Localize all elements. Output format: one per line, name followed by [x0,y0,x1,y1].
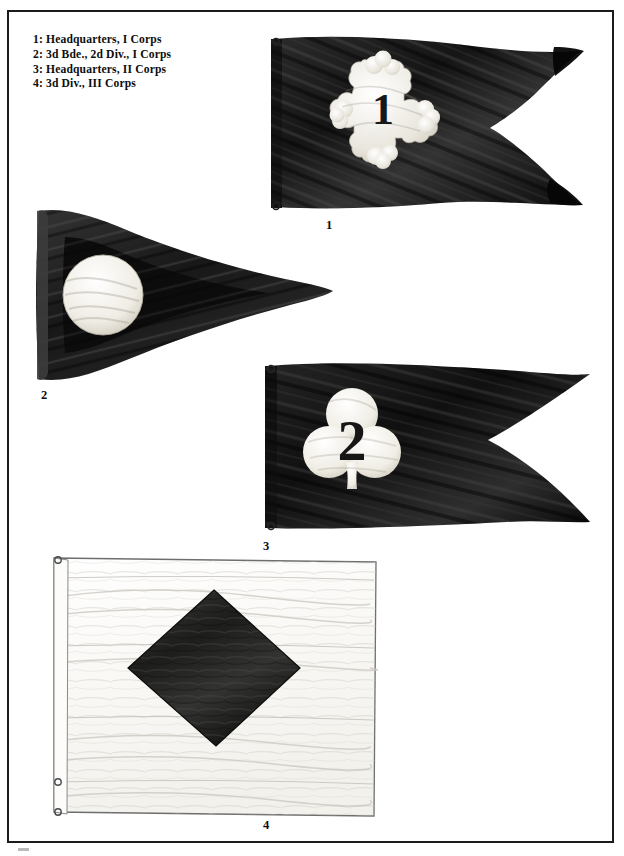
flag-3-emblem-numeral: 2 [338,408,367,473]
flag-figure-2 [33,203,338,385]
flag-2-hoist-edge [37,210,48,380]
legend-line-1: 1: Headquarters, I Corps [33,33,263,48]
flag-figure-1: 1 [262,33,587,218]
legend-line-4: 4: 3d Div., III Corps [33,77,263,92]
flag-3-illustration: 2 [256,360,596,535]
flag-2-emblem-disc [63,255,143,335]
flag-plate: 1: Headquarters, I Corps 2: 3d Bde., 2d … [0,0,624,856]
flag-3-hoist-texture [265,366,277,528]
flag-1-illustration: 1 [262,33,587,218]
flag-caption-2: 2 [34,388,54,403]
legend-block: 1: Headquarters, I Corps 2: 3d Bde., 2d … [33,33,263,92]
flag-figure-3: 2 [256,360,596,535]
flag-4-hoist-strip [54,558,68,814]
flag-1-emblem-numeral: 1 [372,85,394,134]
flag-2-illustration [33,203,338,385]
flag-1-hoist-texture [271,39,282,208]
scan-artifact-mark [18,848,29,851]
legend-line-3: 3: Headquarters, II Corps [33,63,263,78]
flag-figure-4 [44,550,384,822]
flag-caption-4: 4 [256,818,276,833]
legend-line-2: 2: 3d Bde., 2d Div., I Corps [33,48,263,63]
flag-4-illustration [44,550,384,822]
